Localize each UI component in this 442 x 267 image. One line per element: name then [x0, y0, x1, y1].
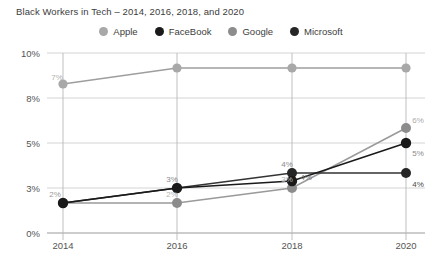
- plot-area: [0, 0, 442, 267]
- data-point: [401, 63, 410, 72]
- series-line-microsoft: [63, 168, 411, 203]
- chart-container: Black Workers in Tech – 2014, 2016, 2018…: [0, 0, 442, 267]
- x-axis-tick-label: 2020: [383, 240, 429, 251]
- data-point-label: 2%: [49, 190, 61, 199]
- data-point-label: 4%: [300, 173, 312, 182]
- data-point-label: 4%: [281, 160, 293, 169]
- data-point-label: 3%: [166, 175, 178, 184]
- data-point: [172, 63, 181, 72]
- data-point-label: 4%: [412, 180, 424, 189]
- data-point-label: 2%: [166, 190, 178, 199]
- data-point: [287, 63, 296, 72]
- data-point: [58, 198, 68, 208]
- y-axis-tick-label: 5%: [10, 138, 40, 149]
- grid-lines: [47, 53, 425, 240]
- y-axis-tick-label: 8%: [10, 93, 40, 104]
- data-point-label: 6%: [412, 116, 424, 125]
- y-axis-tick-label: 3%: [10, 183, 40, 194]
- data-point-label: 7%: [51, 73, 63, 82]
- data-point: [401, 138, 411, 148]
- x-axis-tick-label: 2018: [269, 240, 315, 251]
- data-point-label: 5%: [412, 149, 424, 158]
- data-point: [401, 168, 411, 178]
- x-axis-tick-label: 2016: [154, 240, 200, 251]
- y-axis-tick-label: 0%: [10, 228, 40, 239]
- data-point: [401, 123, 411, 133]
- x-axis-tick-label: 2014: [40, 240, 86, 251]
- data-point-label: 3%: [281, 175, 293, 184]
- series-line-apple: [58, 63, 410, 88]
- data-point: [172, 198, 182, 208]
- y-axis-tick-label: 10%: [10, 48, 40, 59]
- series-line-google: [58, 123, 411, 208]
